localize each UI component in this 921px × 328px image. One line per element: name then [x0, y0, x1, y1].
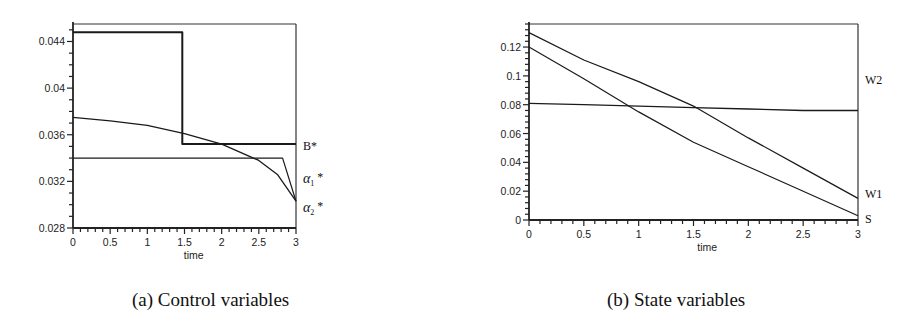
x-tick-label: 2.5: [796, 228, 811, 240]
y-tick-label: 0.08: [501, 99, 522, 111]
figure-control-variables: 0.0280.0320.0360.040.04400.511.522.53tim…: [0, 0, 460, 328]
x-tick-label: 3: [293, 236, 299, 248]
y-tick-label: 0.12: [501, 41, 522, 53]
control-variables-chart: 0.0280.0320.0360.040.04400.511.522.53tim…: [0, 0, 460, 280]
x-tick-label: 0: [70, 236, 76, 248]
x-tick-label: 3: [855, 228, 861, 240]
y-tick-label: 0.036: [39, 129, 65, 141]
y-tick-label: 0.04: [45, 82, 66, 94]
series-label: α2 *: [303, 199, 323, 217]
series-line-b: [73, 32, 296, 144]
x-axis-title: time: [184, 249, 204, 261]
x-tick-label: 0.5: [577, 228, 592, 240]
x-tick-label: 0: [526, 228, 532, 240]
state-variables-chart: 00.020.040.060.080.10.1200.511.522.53tim…: [460, 0, 921, 280]
caption-state-variables: (b) State variables: [607, 289, 745, 311]
x-tick-label: 2.5: [252, 236, 267, 248]
caption-control-variables: (a) Control variables: [132, 289, 289, 311]
y-tick-label: 0.1: [506, 70, 521, 82]
x-tick-label: 1.5: [686, 228, 701, 240]
series-line-w1: [529, 33, 858, 199]
x-tick-label: 1: [636, 228, 642, 240]
series-line-s: [529, 47, 858, 216]
series-line-w2: [529, 103, 858, 110]
series-label: S: [865, 212, 872, 226]
y-tick-label: 0.06: [501, 128, 522, 140]
y-tick-label: 0.02: [501, 185, 522, 197]
x-tick-label: 1.5: [177, 236, 192, 248]
y-tick-label: 0.028: [39, 222, 65, 234]
series-label: α1 *: [303, 170, 323, 188]
x-tick-label: 1: [144, 236, 150, 248]
series-label: B*: [303, 139, 317, 153]
y-tick-label: 0.044: [39, 35, 65, 47]
y-tick-label: 0.04: [501, 156, 522, 168]
x-tick-label: 2: [219, 236, 225, 248]
series-label: W1: [865, 187, 882, 201]
y-tick-label: 0.032: [39, 175, 65, 187]
y-tick-label: 0: [515, 214, 521, 226]
figure-state-variables: 00.020.040.060.080.10.1200.511.522.53tim…: [460, 0, 921, 328]
series-line-1: [73, 158, 296, 201]
x-axis-title: time: [697, 241, 717, 253]
series-label: W2: [865, 73, 882, 87]
series-line-2: [73, 117, 296, 201]
x-tick-label: 2: [745, 228, 751, 240]
x-tick-label: 0.5: [103, 236, 118, 248]
